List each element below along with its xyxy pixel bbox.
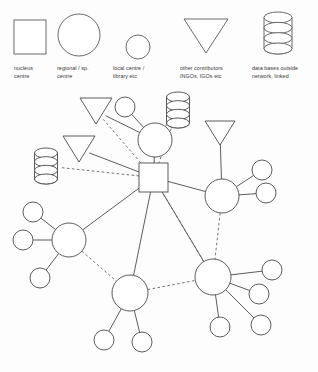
square-icon bbox=[14, 20, 46, 54]
local-centre-br-upper[interactable] bbox=[262, 260, 282, 280]
legend-item-square: nucleuscentre bbox=[14, 20, 46, 79]
regional-centre-left[interactable] bbox=[52, 223, 86, 257]
local-centre-left-lower[interactable] bbox=[30, 268, 50, 288]
edge-r_bright-to-l_br4 bbox=[215, 295, 218, 317]
edge-nucleus-to-t_2 bbox=[89, 153, 140, 172]
regional-centre-bottom[interactable] bbox=[112, 275, 148, 311]
contributor-upper-left[interactable] bbox=[80, 98, 112, 124]
legend-label-line1: data bases outside bbox=[252, 65, 298, 71]
legend-label-line1: regional / sp. bbox=[57, 65, 89, 71]
network-diagram: nucleuscentreregional / sp.centrelocal c… bbox=[0, 0, 318, 372]
legend-label-line1: other contributors bbox=[180, 65, 223, 71]
legend-label-line2: INGOs, IGOs etc bbox=[180, 73, 222, 79]
local-centre-bottom-left[interactable] bbox=[94, 330, 114, 350]
local-centre-br-lower[interactable] bbox=[251, 315, 271, 335]
legend: nucleuscentreregional / sp.centrelocal c… bbox=[14, 12, 298, 79]
edge-r_left-to-r_bottom bbox=[82, 251, 117, 281]
legend-label-line1: local centre / bbox=[113, 65, 145, 71]
legend-label-line2: centre bbox=[14, 73, 29, 79]
cylinder-ring-1 bbox=[264, 22, 292, 33]
nucleus-centre[interactable] bbox=[139, 163, 168, 192]
edge-nucleus-to-r_left bbox=[83, 186, 142, 230]
edge-nucleus-to-r_right bbox=[167, 181, 205, 191]
small-circle-icon bbox=[126, 35, 150, 59]
database-left[interactable] bbox=[35, 148, 58, 184]
node-layer bbox=[13, 92, 282, 352]
edge-r_top-to-t_1 bbox=[106, 116, 140, 133]
legend-item-cylinder: data bases outsidenetwork, linked bbox=[252, 12, 298, 79]
edge-r_left-to-l_l3 bbox=[46, 254, 59, 271]
local-centre-left-mid[interactable] bbox=[13, 230, 33, 250]
diagram-page: nucleuscentreregional / sp.centrelocal c… bbox=[0, 0, 318, 372]
legend-label-line1: nucleus bbox=[14, 65, 33, 71]
cylinder-ring-2 bbox=[264, 33, 292, 44]
regional-centre-bottom-right[interactable] bbox=[195, 259, 231, 295]
cylinder-ring-0 bbox=[264, 12, 292, 23]
regional-centre-top[interactable] bbox=[138, 123, 172, 157]
edge-r_bright-to-l_br2 bbox=[230, 283, 250, 290]
local-centre-left-upper[interactable] bbox=[23, 202, 43, 222]
local-centre-right-lower[interactable] bbox=[256, 183, 276, 203]
edge-r_bright-to-l_br1 bbox=[231, 271, 262, 275]
large-circle-icon bbox=[58, 14, 100, 56]
triangle-icon bbox=[184, 19, 228, 53]
contributor-mid-left[interactable] bbox=[63, 136, 95, 162]
edge-r_top-to-l_top bbox=[132, 114, 144, 127]
legend-item-triangle-down: other contributorsINGOs, IGOs etc bbox=[180, 19, 228, 79]
edge-r_right-to-l_r1 bbox=[236, 175, 253, 186]
cylinder-ring-3 bbox=[35, 174, 58, 184]
cylinder-icon bbox=[264, 12, 292, 54]
legend-label-line2: library etc bbox=[113, 73, 137, 79]
legend-item-circle-large: regional / sp.centre bbox=[57, 14, 100, 79]
regional-centre-right[interactable] bbox=[205, 179, 239, 213]
edge-r_bottom-to-l_b2 bbox=[134, 310, 139, 332]
cylinder-ring-3 bbox=[167, 118, 190, 128]
local-centre-bottom-right[interactable] bbox=[132, 332, 152, 352]
edge-r_bottom-to-l_b1 bbox=[109, 309, 121, 331]
edge-r_right-to-t_3 bbox=[220, 143, 221, 179]
edge-nucleus-to-r_bottom bbox=[134, 192, 151, 276]
edge-r_bottom-to-r_bright bbox=[148, 280, 196, 289]
local-centre-top[interactable] bbox=[115, 97, 135, 117]
edge-r_right-to-r_bright bbox=[215, 213, 220, 259]
edge-nucleus-to-r_bright bbox=[161, 190, 204, 262]
local-centre-br-bottom[interactable] bbox=[210, 317, 230, 337]
local-centre-br-mid[interactable] bbox=[249, 284, 269, 304]
database-top[interactable] bbox=[167, 92, 190, 128]
legend-item-circle-small: local centre /library etc bbox=[113, 35, 150, 79]
legend-label-line2: network, linked bbox=[252, 73, 289, 79]
edge-r_right-to-l_r2 bbox=[239, 194, 256, 195]
contributor-right[interactable] bbox=[205, 121, 235, 145]
edge-r_left-to-l_l1 bbox=[41, 218, 56, 229]
edge-nucleus-to-db_left bbox=[61, 168, 139, 176]
cylinder-ring-3 bbox=[264, 43, 292, 54]
legend-label-line2: centre bbox=[57, 73, 72, 79]
local-centre-right-upper[interactable] bbox=[252, 160, 272, 180]
